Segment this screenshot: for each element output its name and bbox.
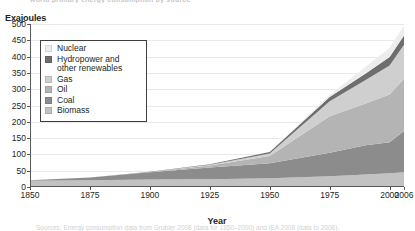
legend-swatch-icon <box>45 56 52 63</box>
legend-item: Nuclear <box>45 44 142 54</box>
y-tick-mark <box>27 89 30 90</box>
legend-item: Gas <box>45 75 142 85</box>
x-axis-line <box>30 186 404 187</box>
legend-swatch-icon <box>45 97 52 104</box>
x-tick-mark <box>150 187 151 190</box>
legend-item: Oil <box>45 85 142 95</box>
x-tick-mark <box>390 187 391 190</box>
y-tick-label: 350 <box>2 68 26 78</box>
y-tick-label: 500 <box>2 19 26 29</box>
y-tick-label: 300 <box>2 84 26 94</box>
legend-label: Coal <box>57 96 74 106</box>
y-tick-label: 100 <box>2 149 26 159</box>
y-tick-mark <box>27 171 30 172</box>
legend-swatch-icon <box>45 86 52 93</box>
y-tick-mark <box>27 40 30 41</box>
y-tick-mark <box>27 57 30 58</box>
legend-item: Coal <box>45 96 142 106</box>
y-axis-line <box>30 24 31 187</box>
x-tick-mark <box>210 187 211 190</box>
chart-legend: NuclearHydropower and other renewablesGa… <box>40 40 147 122</box>
x-tick-mark <box>90 187 91 190</box>
x-tick-label: 1875 <box>80 190 99 200</box>
x-tick-mark <box>330 187 331 190</box>
y-tick-mark <box>27 73 30 74</box>
y-tick-mark <box>27 24 30 25</box>
x-tick-label: 1975 <box>320 190 339 200</box>
legend-swatch-icon <box>45 45 52 52</box>
x-tick-label: 1950 <box>260 190 279 200</box>
cropped-figure-title: world primary energy consumption by sour… <box>30 0 191 3</box>
y-tick-label: 50 <box>2 166 26 176</box>
y-tick-mark <box>27 106 30 107</box>
legend-label: Nuclear <box>57 44 86 54</box>
x-tick-mark <box>270 187 271 190</box>
y-tick-mark <box>27 122 30 123</box>
y-tick-label: 250 <box>2 101 26 111</box>
x-tick-label: 1850 <box>21 190 40 200</box>
legend-label: Oil <box>57 85 67 95</box>
legend-label: Gas <box>57 75 73 85</box>
legend-swatch-icon <box>45 76 52 83</box>
legend-label: Hydropower and other renewables <box>57 55 122 74</box>
x-tick-label: 1925 <box>200 190 219 200</box>
y-tick-label: 450 <box>2 35 26 45</box>
legend-item: Biomass <box>45 106 142 116</box>
y-tick-label: 200 <box>2 117 26 127</box>
y-tick-label: 400 <box>2 52 26 62</box>
legend-swatch-icon <box>45 107 52 114</box>
figure-root: world primary energy consumption by sour… <box>0 0 415 231</box>
x-tick-label: 1900 <box>140 190 159 200</box>
y-tick-mark <box>27 138 30 139</box>
cropped-source-note: Sources: Energy consumption data from Gr… <box>36 224 407 231</box>
x-tick-mark <box>30 187 31 190</box>
legend-item: Hydropower and other renewables <box>45 55 142 74</box>
legend-label: Biomass <box>57 106 90 116</box>
y-tick-mark <box>27 154 30 155</box>
x-tick-label: 2006 <box>395 190 414 200</box>
x-tick-mark <box>404 187 405 190</box>
y-tick-label: 150 <box>2 133 26 143</box>
